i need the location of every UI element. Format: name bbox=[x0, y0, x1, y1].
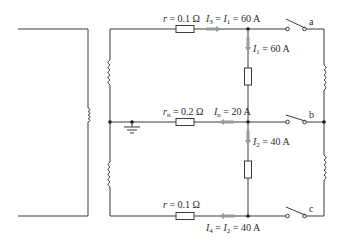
neutral-line-resistor bbox=[176, 119, 194, 126]
circuit-diagram: a b c r = 0.1 Ω I3 = I1 = 60 A I1 = 60 A… bbox=[0, 0, 344, 245]
load1-current-label: I1 = 60 A bbox=[252, 43, 290, 56]
top-resistor-label: r = 0.1 Ω bbox=[163, 13, 200, 24]
ground-icon bbox=[124, 122, 140, 133]
bottom-resistor-label: r = 0.1 Ω bbox=[163, 199, 200, 210]
arrow-left-icon bbox=[219, 119, 234, 125]
switch-c-label: c bbox=[309, 203, 314, 214]
arrow-left-icon bbox=[219, 213, 234, 219]
arrow-down-icon bbox=[245, 37, 251, 52]
arrow-right-icon bbox=[206, 26, 221, 32]
switch-b bbox=[286, 115, 324, 124]
upper-load-coil-icon bbox=[324, 65, 326, 90]
right-load bbox=[322, 29, 326, 216]
secondary-upper-coil-icon bbox=[108, 60, 110, 85]
load2-current-label: I2 = 40 A bbox=[252, 136, 290, 149]
bottom-line bbox=[110, 213, 286, 220]
switch-c bbox=[286, 207, 324, 218]
neutral-line bbox=[110, 119, 286, 134]
primary-coil-icon bbox=[88, 108, 90, 122]
secondary-lower-coil-icon bbox=[108, 162, 110, 187]
lower-load-coil-icon bbox=[324, 155, 326, 180]
top-line-resistor bbox=[176, 26, 194, 33]
arrow-down-icon bbox=[245, 130, 251, 145]
neutral-resistor-label: rn = 0.2 Ω bbox=[163, 106, 203, 119]
bottom-current-label: I4 = I2 = 40 A bbox=[205, 222, 261, 235]
top-line bbox=[110, 26, 286, 33]
bottom-line-resistor bbox=[176, 213, 194, 220]
neutral-current-label: In = 20 A bbox=[213, 106, 251, 119]
load2-resistor bbox=[245, 161, 252, 178]
switch-a bbox=[286, 19, 324, 31]
switch-a-label: a bbox=[309, 16, 314, 27]
load1-resistor bbox=[245, 68, 252, 85]
transformer-primary bbox=[18, 29, 90, 216]
top-current-label: I3 = I1 = 60 A bbox=[205, 13, 261, 26]
switch-b-label: b bbox=[309, 109, 314, 120]
